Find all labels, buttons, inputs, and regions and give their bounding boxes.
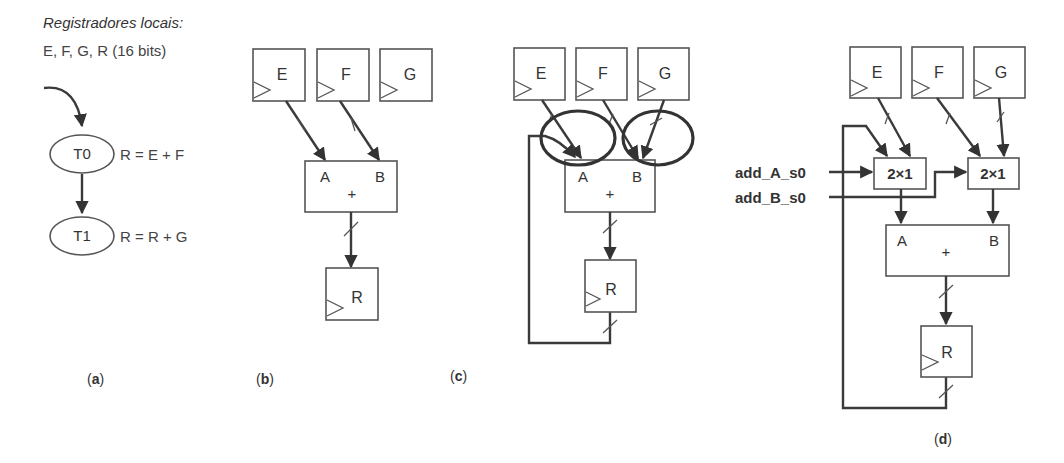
- svg-text:B: B: [375, 168, 385, 185]
- fsm-part-a: T0 T1: [44, 88, 114, 255]
- svg-text:F: F: [934, 64, 944, 81]
- svg-text:G: G: [404, 66, 416, 83]
- svg-text:A: A: [578, 168, 588, 185]
- datapath-part-b: E F G A B + R: [253, 49, 432, 320]
- svg-text:2×1: 2×1: [887, 165, 912, 182]
- svg-text:E: E: [536, 65, 547, 82]
- svg-text:E: E: [872, 64, 883, 81]
- svg-text:R: R: [605, 281, 617, 298]
- svg-text:G: G: [995, 64, 1007, 81]
- svg-text:F: F: [598, 65, 608, 82]
- initial-transition-arrow: [44, 88, 82, 126]
- svg-text:F: F: [341, 66, 351, 83]
- svg-text:B: B: [989, 232, 999, 249]
- state-t0-label: T0: [73, 145, 91, 162]
- state-t1-label: T1: [73, 227, 91, 244]
- svg-text:+: +: [606, 185, 615, 202]
- e-to-a-wire: [286, 101, 325, 160]
- svg-text:A: A: [897, 232, 907, 249]
- svg-text:B: B: [632, 168, 642, 185]
- svg-text:+: +: [942, 243, 951, 260]
- datapath-part-c: E F G A B + R: [514, 48, 693, 343]
- svg-text:+: +: [348, 185, 357, 202]
- svg-text:2×1: 2×1: [980, 165, 1005, 182]
- svg-text:A: A: [320, 168, 330, 185]
- f-to-b-wire: [340, 101, 379, 160]
- svg-text:E: E: [277, 66, 288, 83]
- datapath-part-d: E F G 2×1 2×1 A B + R: [829, 47, 1025, 408]
- svg-text:R: R: [351, 289, 363, 306]
- datapath-diagram: T0 T1 E F G A B + R E: [0, 0, 1064, 463]
- svg-text:G: G: [659, 65, 671, 82]
- svg-text:R: R: [941, 344, 953, 361]
